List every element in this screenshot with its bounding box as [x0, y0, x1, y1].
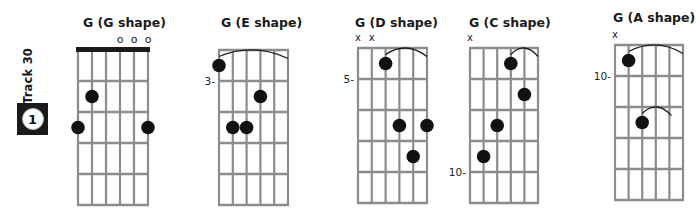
finger-dot	[406, 150, 420, 164]
finger-dot	[518, 88, 532, 102]
muted-string-marker: x	[369, 32, 375, 43]
open-string-marker: o	[131, 33, 138, 46]
fretboard: x10-	[585, 15, 700, 219]
track-label-text: Track 30	[21, 48, 35, 104]
fretboard: ooo	[48, 20, 178, 219]
finger-dot	[141, 121, 155, 135]
finger-dot	[212, 59, 226, 73]
finger-dot	[393, 119, 407, 133]
finger-dot	[85, 90, 99, 104]
muted-string-marker: x	[467, 32, 473, 43]
open-string-marker: o	[117, 33, 124, 46]
finger-dot	[71, 121, 85, 135]
finger-dot	[240, 121, 254, 135]
fret-position-label: 10-	[449, 166, 466, 178]
fretboard: 3-	[189, 20, 318, 219]
fret-position-label: 10-	[594, 70, 611, 82]
finger-dot	[420, 119, 434, 133]
finger-dot	[490, 119, 504, 133]
finger-dot	[504, 57, 518, 71]
finger-dot	[254, 90, 268, 104]
muted-string-marker: x	[612, 29, 618, 40]
track-number: 1	[28, 112, 37, 127]
muted-string-marker: x	[355, 32, 361, 43]
fretboard: xx5-	[328, 18, 457, 219]
finger-dot	[477, 150, 491, 164]
nut	[76, 47, 150, 52]
track-number-badge: 1	[17, 103, 48, 135]
track-number-circle: 1	[22, 108, 44, 130]
fretboard: x10-	[440, 18, 568, 219]
finger-dot	[379, 57, 393, 71]
track-label: Track 30	[14, 56, 42, 96]
finger-dot	[622, 54, 636, 68]
fret-position-label: 5-	[344, 73, 355, 85]
fret-position-label: 3-	[205, 75, 216, 87]
finger-dot	[635, 116, 649, 130]
open-string-marker: o	[145, 33, 152, 46]
finger-dot	[226, 121, 240, 135]
